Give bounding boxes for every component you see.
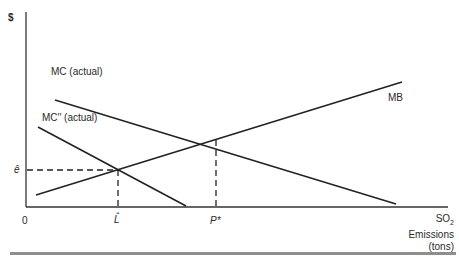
mb-label: MB <box>388 92 403 103</box>
origin-label: 0 <box>22 215 28 226</box>
p-star-label: P* <box>210 215 221 226</box>
mb-line <box>36 82 402 195</box>
e-hat-label: ê <box>14 164 20 175</box>
mc-actual-line <box>55 100 396 204</box>
mc-actual-label: MC (actual) <box>51 66 103 77</box>
y-axis-label: $ <box>8 12 14 23</box>
bottom-rule <box>10 252 456 255</box>
mc-double-prime-line <box>38 127 186 206</box>
x-axis-so: SO <box>436 213 450 224</box>
mc-double-prime-label: MC′′ (actual) <box>42 112 97 123</box>
diagram-canvas <box>0 0 459 263</box>
x-axis-emissions: Emissions <box>408 229 454 241</box>
x-axis-label: SO2 Emissions (tons) <box>408 213 454 253</box>
l-hat-label: L̂ <box>114 214 120 225</box>
x-axis-subscript: 2 <box>450 219 454 226</box>
